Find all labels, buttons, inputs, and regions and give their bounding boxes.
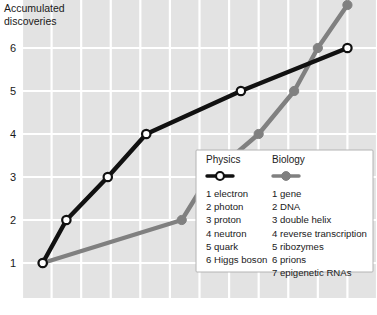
legend: Physics1 electron2 photon3 proton4 neutr… [196,150,373,278]
legend-item: 3 double helix [272,214,331,225]
legend-item: 1 gene [272,188,301,199]
data-point-physics [39,259,47,267]
y-tick-label: 3 [10,171,16,183]
legend-item: 4 neutron [206,228,247,239]
data-point-physics [142,130,150,138]
data-point-physics [237,87,245,95]
data-point-physics [62,216,70,224]
legend-item: 6 prions [272,254,306,265]
legend-heading-biology: Biology [272,154,305,165]
y-axis-tick-labels: 123456 [10,42,16,269]
legend-heading-physics: Physics [206,154,240,165]
legend-item: 1 electron [206,188,248,199]
y-tick-label: 6 [10,42,16,54]
legend-item: 7 epigenetic RNAs [272,267,352,278]
data-point-biology [343,0,352,9]
chart-container: Accumulated discoveries 123456 Physics1 … [0,0,377,315]
y-tick-label: 2 [10,214,16,226]
legend-item: 5 ribozymes [272,241,324,252]
legend-item: 3 proton [206,214,241,225]
accumulated-discoveries-chart: Accumulated discoveries 123456 Physics1 … [0,0,377,315]
legend-item: 2 DNA [272,201,301,212]
legend-item: 4 reverse transcription [272,228,367,239]
data-point-biology [290,86,299,95]
legend-item: 5 quark [206,241,238,252]
data-point-biology [313,43,322,52]
legend-item: 2 photon [206,201,243,212]
data-point-physics [104,173,112,181]
data-point-biology [177,215,186,224]
y-axis-title-line1: Accumulated [4,2,65,14]
data-point-biology [254,129,263,138]
legend-item: 6 Higgs boson [206,254,267,265]
data-point-physics [343,44,351,52]
y-tick-label: 1 [10,257,16,269]
y-tick-label: 4 [10,128,16,140]
y-tick-label: 5 [10,85,16,97]
legend-marker-biology [282,172,291,181]
legend-marker-physics [216,172,224,180]
y-axis-title-line2: discoveries [4,15,57,27]
